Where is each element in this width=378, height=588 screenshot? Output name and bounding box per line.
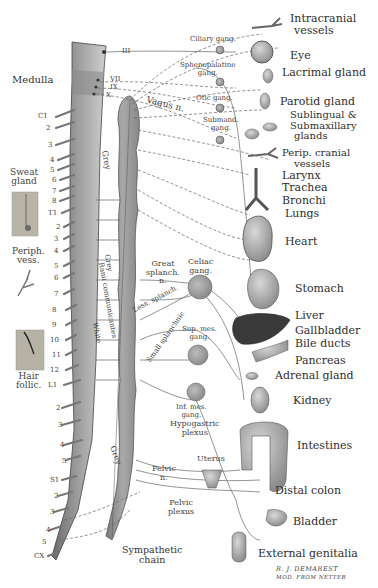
level-t11: 11 (52, 352, 61, 360)
level-t9: 9 (52, 322, 56, 330)
eye-icon (251, 41, 273, 63)
kidney-icon (251, 387, 269, 413)
bladder-icon (266, 509, 287, 526)
label-pelvic-plexus: Pelvic plexus (168, 499, 194, 516)
level-l5: 5 (62, 458, 66, 466)
adrenal-gland-icon (246, 373, 258, 380)
skin-insets (12, 192, 44, 370)
label-otic-gang: Otic gang. (196, 95, 233, 103)
sweat-gland-inset (12, 192, 38, 236)
label-bile-ducts: Bile ducts (295, 338, 350, 350)
cranial-nerve-x: X (106, 92, 111, 100)
label-lacrimal-gland: Lacrimal gland (282, 67, 366, 79)
label-pelvic-n: Pelvic n. (152, 465, 176, 482)
label-sup-mes-gang: Sup. mes. gang. (182, 326, 217, 341)
level-s4: 4 (46, 527, 50, 535)
stomach-icon (248, 269, 279, 308)
label-heart: Heart (285, 236, 317, 248)
celiac-ganglion (188, 275, 212, 299)
cranial-nerve-iii: III (122, 48, 130, 56)
level-t10: 10 (50, 337, 59, 345)
level-l3: 3 (58, 422, 62, 430)
level-l1: L1 (48, 382, 57, 390)
level-t7: 7 (54, 291, 58, 299)
level-s3: 3 (50, 509, 54, 517)
level-c4: 4 (50, 157, 54, 165)
label-adrenal-gland: Adrenal gland (275, 370, 354, 382)
label-kidney: Kidney (293, 395, 332, 407)
label-sweat-gland: Sweat gland (10, 168, 38, 186)
label-bladder: Bladder (293, 516, 337, 528)
level-c3: 3 (48, 142, 52, 150)
submaxillary-gland-icon (245, 129, 259, 139)
label-medulla: Medulla (12, 74, 53, 85)
label-sphenopalatine-gang: Sphenopalatine gang. (180, 62, 235, 77)
label-distal-colon: Distal colon (275, 485, 341, 497)
level-t8: 8 (52, 307, 56, 315)
level-c7: 7 (52, 188, 56, 196)
label-periph-vess: Periph. vess. (12, 247, 45, 265)
label-stomach: Stomach (295, 283, 344, 295)
label-hair-follic: Hair follic. (16, 372, 41, 390)
intracranial-vessel-icon (252, 18, 282, 28)
label-lungs: Lungs (285, 208, 319, 220)
artist-credit: MOD. FROM NETTER (276, 574, 346, 580)
sphenopalatine-ganglion (216, 78, 224, 86)
heart-icon (243, 216, 272, 261)
level-c1: C1 (38, 113, 48, 121)
ciliary-ganglion (216, 46, 224, 54)
liver-icon (233, 314, 290, 345)
label-eye: Eye (290, 50, 311, 62)
label-hypogastric-plexus: Hypogastric plexus (170, 420, 220, 437)
uterus-icon (202, 470, 222, 488)
level-s5: 5 (42, 539, 46, 547)
label-sublingual-submaxillary: Sublingual & Submaxillary glands (290, 110, 357, 142)
label-celiac-gang: Celiac gang. (188, 258, 213, 275)
level-l2: 2 (56, 405, 60, 413)
label-trachea: Trachea (282, 182, 327, 194)
lacrimal-gland-icon (263, 69, 273, 83)
otic-ganglion (216, 104, 224, 112)
label-parotid-gland: Parotid gland (280, 96, 355, 108)
level-c8: 8 (52, 198, 56, 206)
label-gallbladder: Gallbladder (295, 325, 360, 337)
level-l4: 4 (60, 442, 64, 450)
trachea-icon (246, 168, 268, 210)
parotid-gland-icon (260, 93, 270, 109)
label-intestines: Intestines (297, 440, 352, 452)
label-uterus: Uterus (197, 455, 225, 464)
level-c2: 2 (46, 125, 50, 133)
level-s2: 2 (54, 493, 58, 501)
label-inf-mes-gang: Inf. mes. gang. (176, 404, 207, 419)
cranial-nerve-ix: IX (110, 84, 118, 92)
level-c6: 6 (52, 177, 56, 185)
label-external-genitalia: External genitalia (258, 548, 358, 560)
artist-signature: R. J. DEMAREST (276, 565, 338, 573)
label-sympathetic-chain: Sympathetic chain (122, 545, 182, 565)
hair-follicle-inset (16, 330, 44, 370)
sup-mes-ganglion (188, 345, 208, 365)
genitalia-icon (232, 532, 246, 562)
label-liver: Liver (295, 310, 324, 322)
level-t1: T1 (48, 210, 57, 218)
sublingual-gland-icon (263, 123, 277, 131)
label-perip-cranial-vessels: Perip. cranial vessels (282, 148, 350, 169)
label-pancreas: Pancreas (295, 355, 346, 367)
level-t4: 4 (54, 248, 58, 256)
perip-cranial-vessel-icon (248, 148, 278, 158)
label-submand-gang: Submand. gang. (203, 117, 239, 132)
label-great-splanch: Great splanch. n. (146, 260, 180, 286)
level-t5: 5 (54, 263, 58, 271)
label-intracranial-vessels: Intracranial vessels (290, 13, 356, 37)
level-c5: 5 (50, 167, 54, 175)
submand-ganglion (216, 136, 224, 144)
inf-mes-ganglion (187, 383, 205, 401)
level-t12: 12 (50, 367, 59, 375)
level-s1: S1 (50, 477, 59, 485)
level-t2: 2 (56, 224, 60, 232)
label-bronchi: Bronchi (282, 195, 326, 207)
periph-vess-icon (18, 270, 34, 296)
level-cx: CX (34, 553, 44, 561)
level-t6: 6 (54, 275, 58, 283)
level-t3: 3 (54, 236, 58, 244)
